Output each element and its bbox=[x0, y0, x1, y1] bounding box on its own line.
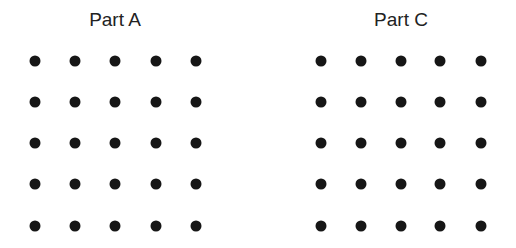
grid-dot bbox=[70, 179, 81, 190]
grid-dot bbox=[151, 221, 162, 232]
grid-dot bbox=[151, 179, 162, 190]
grid-dot bbox=[70, 138, 81, 149]
grid-dot bbox=[316, 97, 327, 108]
grid-dot bbox=[476, 97, 487, 108]
grid-dot bbox=[435, 221, 446, 232]
grid-dot bbox=[110, 179, 121, 190]
grid-dot bbox=[151, 97, 162, 108]
part-c-title: Part C bbox=[374, 9, 428, 31]
grid-dot bbox=[30, 221, 41, 232]
grid-dot bbox=[435, 138, 446, 149]
grid-dot bbox=[316, 179, 327, 190]
grid-dot bbox=[316, 56, 327, 67]
grid-dot bbox=[396, 56, 407, 67]
grid-dot bbox=[30, 138, 41, 149]
grid-dot bbox=[30, 56, 41, 67]
grid-dot bbox=[191, 97, 202, 108]
grid-dot bbox=[191, 221, 202, 232]
grid-dot bbox=[476, 179, 487, 190]
grid-dot bbox=[356, 179, 367, 190]
grid-dot bbox=[191, 138, 202, 149]
grid-dot bbox=[356, 97, 367, 108]
grid-dot bbox=[396, 138, 407, 149]
grid-dot bbox=[110, 138, 121, 149]
part-a-title: Part A bbox=[89, 9, 141, 31]
grid-dot bbox=[396, 179, 407, 190]
grid-dot bbox=[70, 56, 81, 67]
grid-dot bbox=[30, 97, 41, 108]
grid-dot bbox=[191, 56, 202, 67]
grid-dot bbox=[191, 179, 202, 190]
grid-dot bbox=[476, 56, 487, 67]
grid-dot bbox=[435, 179, 446, 190]
grid-dot bbox=[70, 97, 81, 108]
grid-dot bbox=[70, 221, 81, 232]
grid-dot bbox=[435, 56, 446, 67]
grid-dot bbox=[110, 97, 121, 108]
grid-dot bbox=[396, 97, 407, 108]
grid-dot bbox=[356, 138, 367, 149]
grid-dot bbox=[110, 56, 121, 67]
grid-dot bbox=[476, 221, 487, 232]
grid-dot bbox=[356, 221, 367, 232]
grid-dot bbox=[30, 179, 41, 190]
grid-dot bbox=[356, 56, 367, 67]
grid-dot bbox=[476, 138, 487, 149]
grid-dot bbox=[110, 221, 121, 232]
grid-dot bbox=[396, 221, 407, 232]
grid-dot bbox=[435, 97, 446, 108]
grid-dot bbox=[151, 56, 162, 67]
grid-dot bbox=[151, 138, 162, 149]
grid-dot bbox=[316, 138, 327, 149]
grid-dot bbox=[316, 221, 327, 232]
